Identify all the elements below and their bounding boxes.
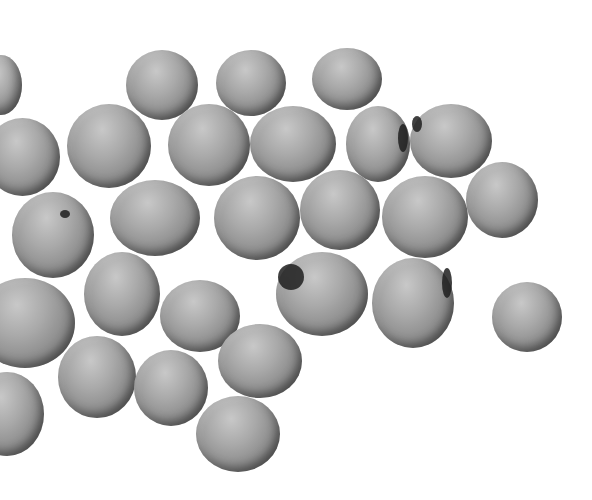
bean-hilum: [398, 124, 408, 152]
soybean: [134, 350, 208, 426]
soybean: [216, 50, 286, 116]
soybean: [84, 252, 160, 336]
soybean: [0, 372, 44, 456]
soybean: [410, 104, 492, 178]
soybean: [0, 55, 22, 115]
soybean: [0, 118, 60, 196]
soybean: [312, 48, 382, 110]
soybean: [372, 258, 454, 348]
soybean: [300, 170, 380, 250]
soybean: [346, 106, 410, 182]
soybean: [382, 176, 468, 258]
soybean: [218, 324, 302, 398]
soybean: [276, 252, 368, 336]
soybean: [58, 336, 136, 418]
soybean: [250, 106, 336, 182]
bean-hilum: [442, 268, 452, 298]
soybean: [168, 104, 250, 186]
soybean: [466, 162, 538, 238]
soybean-photo: Grayscale photograph of soybeans scatter…: [0, 0, 592, 500]
soybean: [196, 396, 280, 472]
bean-hilum: [412, 116, 422, 132]
bean-hilum: [278, 264, 304, 290]
soybean: [12, 192, 94, 278]
soybean: [214, 176, 300, 260]
soybean: [492, 282, 562, 352]
soybean: [67, 104, 151, 188]
soybean: [110, 180, 200, 256]
bean-hilum: [60, 210, 70, 218]
